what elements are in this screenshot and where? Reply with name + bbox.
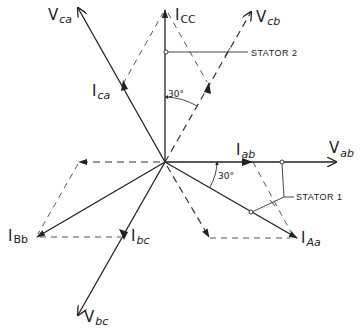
label-i-aa: IAa	[301, 229, 321, 249]
stator1-leader-vertical	[282, 164, 284, 197]
label-stator-1: STATOR 1	[296, 192, 343, 202]
phasor-i-bb	[37, 162, 165, 237]
label-v-cb: Vcb	[256, 8, 280, 28]
label-v-ab: Vab	[329, 139, 354, 160]
phasor-neg-i-ca	[167, 166, 209, 237]
label-stator-2: STATOR 2	[251, 48, 298, 58]
label-i-bc: Ibc	[131, 227, 149, 247]
construction-line-left	[38, 164, 78, 234]
phasor-diagram: Vca ICC Vcb Ica Iab Vab IBb Ibc IAa Vbc …	[0, 0, 360, 331]
construction-line-ica-icc	[123, 13, 163, 84]
stator1-point-lower	[249, 210, 253, 214]
label-v-bc: Vbc	[84, 308, 108, 328]
label-angle-lower: 30°	[218, 171, 234, 181]
label-i-ab: Iab	[236, 141, 255, 161]
label-angle-upper: 30°	[168, 89, 184, 99]
label-i-bb: IBb	[8, 227, 28, 246]
label-i-ca: Ica	[92, 82, 110, 102]
phasor-diagram-svg: Vca ICC Vcb Ica Iab Vab IBb Ibc IAa Vbc …	[0, 0, 360, 331]
label-i-cc: ICC	[175, 6, 196, 26]
angle-arc-lower	[210, 162, 217, 187]
phasor-v-bc	[78, 162, 165, 315]
label-v-ca: Vca	[48, 6, 72, 26]
stator1-leader-diagonal	[252, 197, 284, 212]
stator2-point	[164, 50, 168, 54]
stator1-point-upper	[280, 160, 284, 164]
